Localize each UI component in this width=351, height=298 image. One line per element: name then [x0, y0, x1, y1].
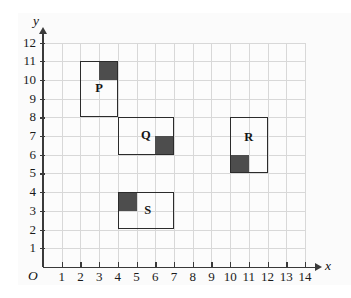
y-axis-tick-label: 8: [14, 109, 36, 125]
figure-panel: PQRS 1234567891011121314123456789101112 …: [0, 0, 351, 298]
y-axis-arrow-icon: [39, 27, 47, 34]
gridline-horizontal: [43, 248, 305, 249]
y-axis-tick-label: 3: [14, 203, 36, 219]
y-axis-tick-label: 4: [14, 184, 36, 200]
x-axis-tick: [211, 262, 212, 267]
y-axis-tick-label: 10: [14, 72, 36, 88]
y-axis-tick-label: 12: [14, 35, 36, 51]
y-axis-tick: [40, 99, 45, 100]
x-axis-tick: [268, 262, 269, 267]
y-axis-tick: [40, 80, 45, 81]
x-axis-tick: [305, 262, 306, 267]
x-axis-tick: [249, 262, 250, 267]
x-axis-tick: [62, 262, 63, 267]
rectangle-r: [230, 117, 267, 173]
x-axis-tick: [230, 262, 231, 267]
y-axis-tick: [40, 43, 45, 44]
x-axis-arrow-icon: [315, 263, 322, 271]
gridline-horizontal: [43, 43, 305, 44]
plot-area: PQRS: [43, 43, 305, 267]
gridline-horizontal: [43, 230, 305, 231]
x-axis-tick: [174, 262, 175, 267]
x-axis-label: x: [325, 258, 331, 274]
x-axis-tick: [80, 262, 81, 267]
y-axis-tick: [40, 61, 45, 62]
rectangle-label-q: Q: [136, 128, 156, 143]
rectangle-label-r: R: [239, 130, 259, 145]
rectangle-label-s: S: [138, 203, 158, 218]
gridline-horizontal: [43, 211, 305, 212]
y-axis-tick: [40, 248, 45, 249]
y-axis-tick-label: 5: [14, 165, 36, 181]
x-axis-tick: [137, 262, 138, 267]
x-axis-tick: [286, 262, 287, 267]
gridline-vertical: [305, 43, 306, 267]
y-axis-tick: [40, 173, 45, 174]
x-axis-tick: [193, 262, 194, 267]
y-axis-line: [42, 33, 44, 267]
y-axis-tick: [40, 155, 45, 156]
gridline-horizontal: [43, 173, 305, 174]
y-axis-tick: [40, 192, 45, 193]
y-axis-tick: [40, 230, 45, 231]
x-axis-tick: [155, 262, 156, 267]
x-axis-tick: [99, 262, 100, 267]
x-axis-tick: [118, 262, 119, 267]
y-axis-tick-label: 7: [14, 128, 36, 144]
y-axis-tick: [40, 211, 45, 212]
y-axis-tick-label: 1: [14, 240, 36, 256]
y-axis-label: y: [33, 13, 39, 29]
origin-label: O: [28, 268, 38, 284]
y-axis-tick: [40, 136, 45, 137]
y-axis-tick-label: 11: [14, 53, 36, 69]
x-axis-tick-label: 14: [294, 269, 316, 285]
y-axis-tick-label: 9: [14, 91, 36, 107]
gridline-horizontal: [43, 192, 305, 193]
y-axis-tick-label: 6: [14, 147, 36, 163]
rectangle-label-p: P: [89, 81, 109, 96]
y-axis-tick: [40, 117, 45, 118]
y-axis-tick-label: 2: [14, 222, 36, 238]
